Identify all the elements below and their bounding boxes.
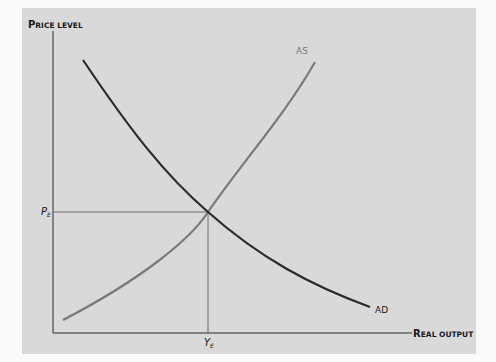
as-label: AS xyxy=(296,46,308,56)
y-axis-label: PRICE LEVEL xyxy=(28,19,83,30)
ad-curve xyxy=(83,60,370,307)
pe-label: PE xyxy=(41,206,51,218)
ad-label: AD xyxy=(375,305,388,315)
as-curve xyxy=(63,62,315,320)
ye-label: YE xyxy=(204,337,214,349)
x-axis-label: REAL OUTPUT xyxy=(413,328,474,339)
ad-as-chart: PRICE LEVEL REAL OUTPUT AS AD PE YE xyxy=(0,0,496,362)
